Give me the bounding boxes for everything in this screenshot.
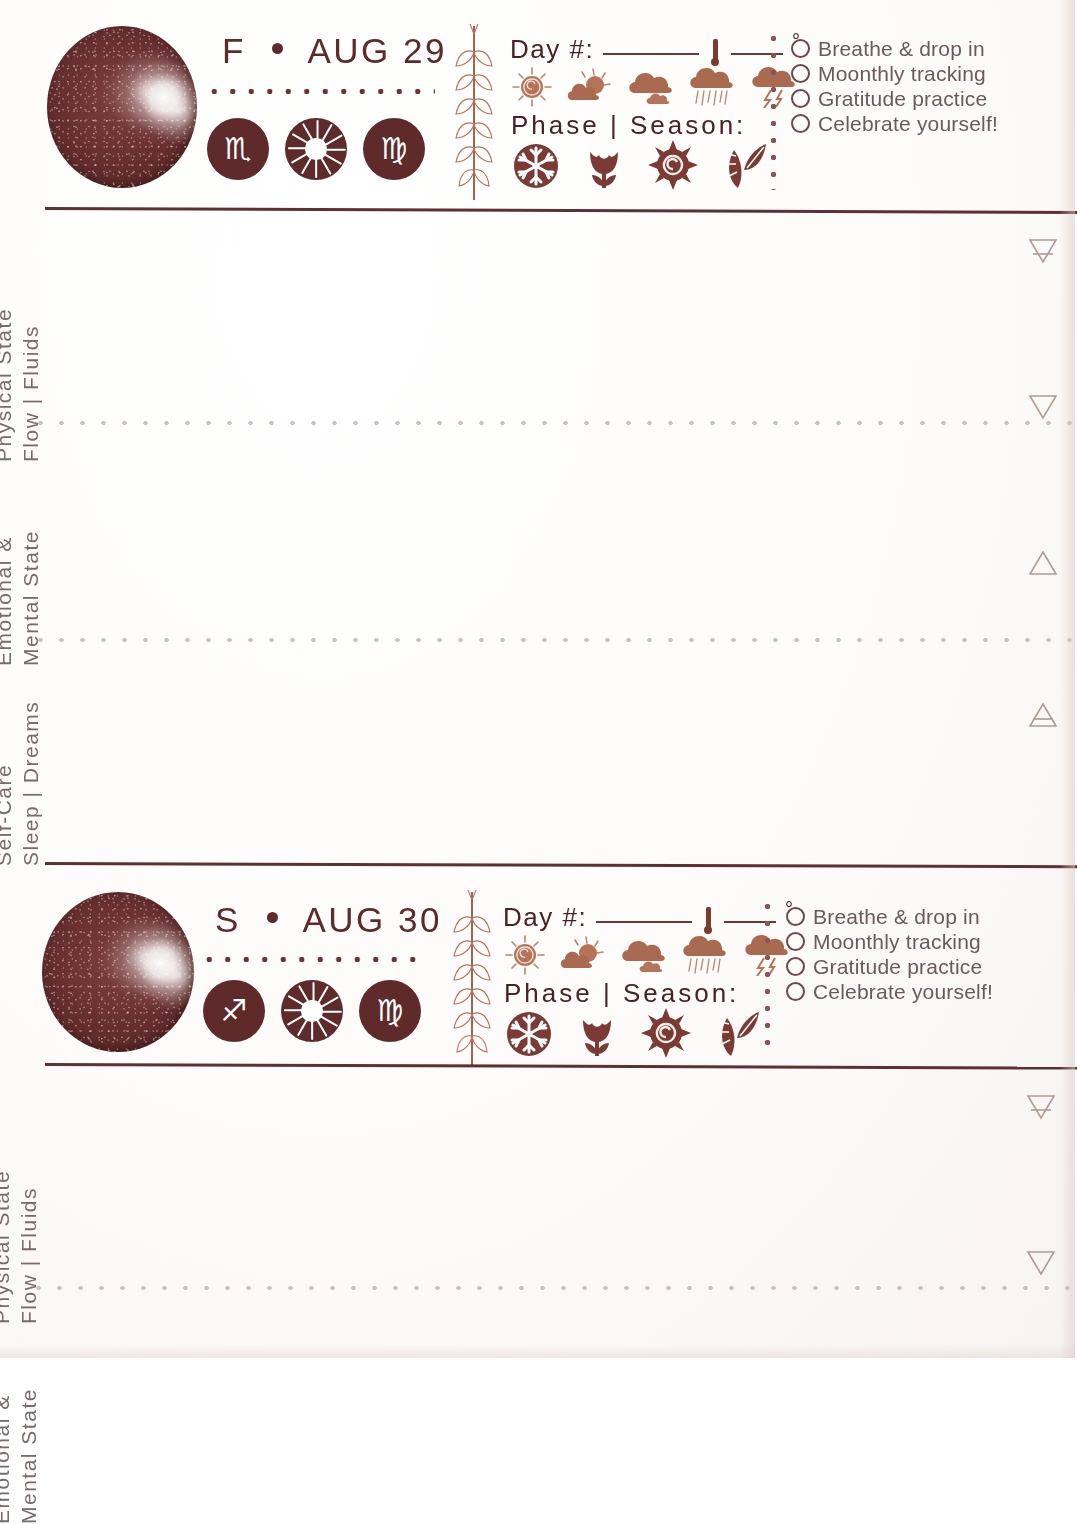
day-number-label-1: Day #: <box>510 34 594 64</box>
dotted-accent-rule-1 <box>205 88 435 95</box>
checklist-item-celebrate-1[interactable]: Celebrate yourself! <box>791 111 998 136</box>
checklist-item-moonthly-1[interactable]: Moonthly tracking <box>791 61 998 86</box>
autumn-leaves-icon-1[interactable] <box>720 140 768 194</box>
virgo-icon: ♍ <box>381 134 408 164</box>
scorpio-icon: ♏ <box>225 134 252 164</box>
checklist-item-moonthly-2[interactable]: Moonthly tracking <box>786 929 993 954</box>
day-number-input-1[interactable] <box>603 53 699 55</box>
day-number-row-2: Day #: ° <box>503 898 795 933</box>
section-label-emotional-mental-2: Emotional & Mental State <box>0 1388 42 1524</box>
sunny-icon-2[interactable] <box>504 934 546 980</box>
partly-cloudy-icon-1[interactable] <box>565 66 613 112</box>
fire-symbol-1 <box>1028 550 1058 578</box>
section-divider-2a <box>28 1285 1075 1291</box>
rainy-icon-2[interactable] <box>680 932 730 980</box>
checkbox-circle-icon[interactable] <box>786 957 805 976</box>
checklist-divider-dots-2 <box>764 898 771 1056</box>
winter-snowflake-icon-1[interactable] <box>512 142 560 194</box>
section-label-line1: Physical State <box>0 308 15 462</box>
daily-checklist-2: Breathe & drop in Moonthly tracking Grat… <box>786 904 993 1004</box>
weather-panel-1: Day #: ° <box>510 30 802 65</box>
sun-sign-virgo-badge-1[interactable]: ♍ <box>363 118 425 180</box>
checklist-label: Gratitude practice <box>818 87 987 111</box>
water-symbol-1 <box>1028 392 1058 420</box>
cloudy-icon-2[interactable] <box>618 934 668 980</box>
summer-sun-spiral-icon-1[interactable] <box>648 140 698 194</box>
section-label-line2: Flow | Fluids <box>17 308 44 462</box>
sun-sign-virgo-badge-2[interactable]: ♍ <box>359 980 421 1042</box>
section-label-line1: Emotional & <box>0 536 15 666</box>
sun-badge-1[interactable] <box>285 118 347 180</box>
checkbox-circle-icon[interactable] <box>786 932 805 951</box>
section-label-physical-state-2: Physical State Flow | Fluids <box>0 1170 42 1324</box>
weather-icon-row-1 <box>511 64 797 112</box>
summer-sun-spiral-icon-2[interactable] <box>641 1008 691 1062</box>
daily-checklist-1: Breathe & drop in Moonthly tracking Grat… <box>791 36 998 136</box>
checklist-label: Breathe & drop in <box>818 37 985 61</box>
date-heading-2: S AUG 30 <box>215 900 442 940</box>
water-symbol-2 <box>1026 1248 1056 1276</box>
checklist-item-celebrate-2[interactable]: Celebrate yourself! <box>786 979 993 1004</box>
checklist-item-gratitude-2[interactable]: Gratitude practice <box>786 954 993 979</box>
rosemary-sprig-divider-1 <box>450 22 498 202</box>
checkbox-circle-icon[interactable] <box>791 89 810 108</box>
weekday-label-1: F <box>222 31 246 70</box>
sunny-icon-1[interactable] <box>511 66 553 112</box>
checkbox-circle-icon[interactable] <box>791 64 810 83</box>
section-label-line1: Emotional & <box>0 1394 13 1524</box>
checklist-item-gratitude-1[interactable]: Gratitude practice <box>791 86 998 111</box>
checklist-label: Breathe & drop in <box>813 905 980 929</box>
season-icon-row-1 <box>512 140 768 194</box>
season-icon-row-2 <box>505 1008 761 1062</box>
section-divider-1a <box>30 420 1075 426</box>
earth-symbol-1 <box>1028 236 1058 264</box>
moon-phase-illustration-1 <box>47 26 197 188</box>
sun-badge-2[interactable] <box>281 980 343 1042</box>
date-heading-1: F AUG 29 <box>222 31 447 71</box>
date-separator-dot-1 <box>272 43 283 54</box>
section-label-physical-state-1: Physical State Flow | Fluids <box>0 308 44 462</box>
moon-phase-illustration-2 <box>42 892 194 1052</box>
dotted-accent-rule-2 <box>200 956 428 963</box>
cloudy-icon-1[interactable] <box>625 66 675 112</box>
section-label-line2: Flow | Fluids <box>15 1170 42 1324</box>
autumn-leaves-icon-2[interactable] <box>713 1008 761 1062</box>
checkbox-circle-icon[interactable] <box>791 114 810 133</box>
checklist-item-breathe-2[interactable]: Breathe & drop in <box>786 904 993 929</box>
section-label-line1: Self-Care <box>0 764 15 866</box>
rainy-icon-1[interactable] <box>687 64 737 112</box>
virgo-icon: ♍ <box>377 996 404 1026</box>
checklist-label: Celebrate yourself! <box>818 112 998 136</box>
checkbox-circle-icon[interactable] <box>791 39 810 58</box>
day-header-2: S AUG 30 ♐ <box>0 870 1075 1055</box>
checklist-label: Gratitude practice <box>813 955 982 979</box>
checkbox-circle-icon[interactable] <box>786 982 805 1001</box>
air-symbol-1 <box>1028 702 1058 730</box>
section-label-line2: Mental State <box>15 1388 42 1524</box>
section-label-line1: Physical State <box>0 1170 13 1324</box>
section-divider-1b <box>30 637 1075 643</box>
spring-tulip-icon-2[interactable] <box>575 1008 619 1062</box>
spring-tulip-icon-1[interactable] <box>582 140 626 194</box>
date-label-2: AUG 30 <box>302 900 442 939</box>
moon-sign-scorpio-badge-1[interactable]: ♏ <box>207 118 269 180</box>
sagittarius-icon: ♐ <box>221 996 248 1026</box>
page-edge-shadow-bottom <box>0 1344 1075 1358</box>
checklist-label: Moonthly tracking <box>813 930 981 954</box>
checklist-label: Moonthly tracking <box>818 62 986 86</box>
moon-sign-sagittarius-badge-2[interactable]: ♐ <box>203 980 265 1042</box>
checklist-label: Celebrate yourself! <box>813 980 993 1004</box>
page-edge-shadow-right <box>1059 0 1075 1358</box>
phase-season-label-1: Phase | Season: <box>511 110 746 141</box>
checklist-item-breathe-1[interactable]: Breathe & drop in <box>791 36 998 61</box>
thermometer-icon-2 <box>706 907 711 931</box>
partly-cloudy-icon-2[interactable] <box>558 934 606 980</box>
day-entry-2: S AUG 30 ♐ <box>0 870 1075 1055</box>
winter-snowflake-icon-2[interactable] <box>505 1010 553 1062</box>
day-number-input-2[interactable] <box>596 921 692 923</box>
checklist-divider-dots-1 <box>770 30 777 190</box>
section-label-emotional-mental-1: Emotional & Mental State <box>0 530 44 666</box>
day-number-row-1: Day #: ° <box>510 30 802 65</box>
checkbox-circle-icon[interactable] <box>786 907 805 926</box>
